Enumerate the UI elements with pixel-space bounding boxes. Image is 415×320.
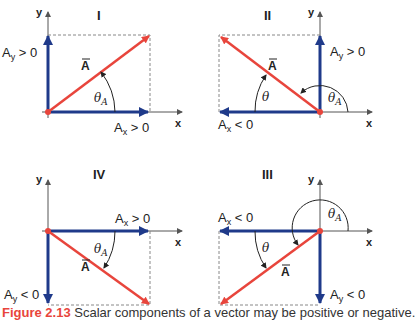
figure-caption: Figure 2.13 Scalar components of a vecto… <box>2 305 415 320</box>
y-axis-label: y <box>36 173 43 185</box>
ax-label: Ax < 0 <box>218 210 253 227</box>
quadrant-label: IV <box>93 167 106 182</box>
theta-a-label: θA <box>94 242 108 258</box>
x-axis-label: x <box>175 236 182 248</box>
theta-label: θ <box>262 241 270 255</box>
quadrant-I: I y x A θA Ay > 0 Ax > 0 <box>2 6 182 137</box>
y-axis-label: y <box>308 173 315 185</box>
origin-point <box>317 228 323 234</box>
x-axis-label: x <box>175 117 182 129</box>
theta-a-label: θA <box>94 91 108 107</box>
origin-point <box>45 228 51 234</box>
quadrant-III: III y x A θ θA Ax < 0 Ay < 0 <box>218 167 373 305</box>
vector-a-label: A <box>81 59 90 73</box>
ay-label: Ay > 0 <box>2 45 37 62</box>
ay-label: Ay > 0 <box>330 44 365 61</box>
ax-label: Ax > 0 <box>114 120 149 137</box>
ay-label: Ay < 0 <box>4 287 39 304</box>
theta-label: θ <box>262 90 270 104</box>
figure-number: Figure 2.13 <box>2 305 71 320</box>
quadrant-label: III <box>262 167 273 182</box>
x-axis-label: x <box>366 236 373 248</box>
y-axis-label: y <box>36 6 43 18</box>
vector-a-arrow <box>221 231 320 304</box>
origin-point <box>317 109 323 115</box>
x-axis-label: x <box>366 117 373 129</box>
quadrant-label: I <box>97 8 101 23</box>
vector-a-label: A <box>81 260 90 274</box>
origin-point <box>45 109 51 115</box>
quadrant-IV: IV y x A θA Ax > 0 Ay < 0 <box>4 167 182 305</box>
quadrant-II: II y x A θ θA Ay > 0 Ax < 0 <box>218 6 373 134</box>
ax-label: Ax > 0 <box>115 211 150 228</box>
ay-label: Ay < 0 <box>330 287 365 304</box>
caption-text: Scalar components of a vector may be pos… <box>71 305 415 320</box>
vector-a-label: A <box>281 265 290 279</box>
theta-a-label: θA <box>328 207 342 223</box>
vector-a-arrow <box>221 37 320 112</box>
vector-a-label: A <box>268 59 277 73</box>
ax-label: Ax < 0 <box>218 117 253 134</box>
quadrant-label: II <box>264 8 271 23</box>
y-axis-label: y <box>308 6 315 18</box>
